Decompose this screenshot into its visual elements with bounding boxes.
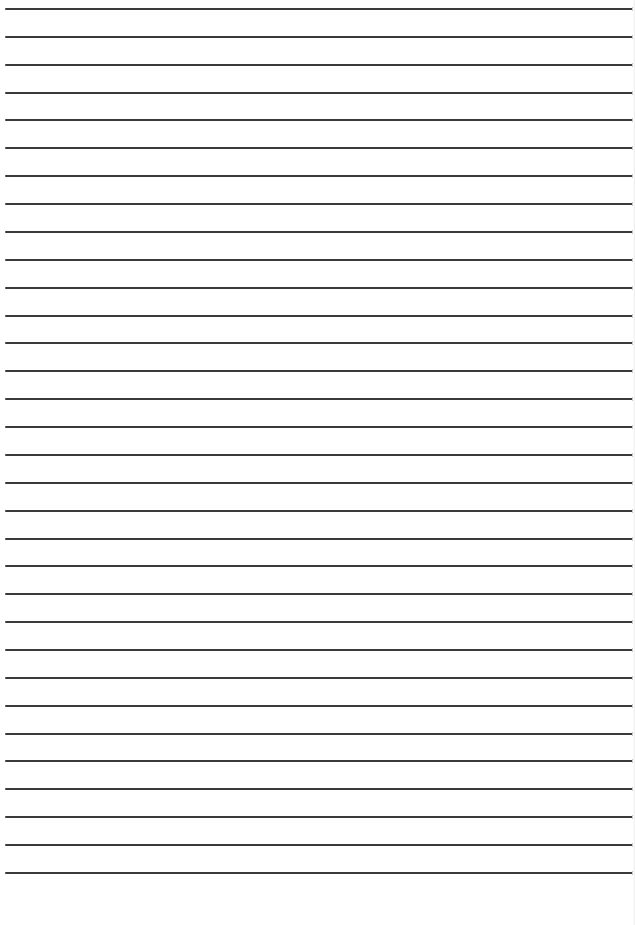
ruled-line	[5, 538, 635, 540]
ruled-line	[5, 426, 635, 428]
ruled-line	[5, 649, 635, 651]
lined-paper-page	[0, 0, 635, 925]
ruled-line	[5, 844, 635, 846]
ruled-line	[5, 315, 635, 317]
ruled-line	[5, 677, 635, 679]
ruled-line	[5, 175, 635, 177]
ruled-line	[5, 119, 635, 121]
ruled-line	[5, 147, 635, 149]
ruled-line	[5, 92, 635, 94]
ruled-line	[5, 565, 635, 567]
ruled-line	[5, 454, 635, 456]
ruled-line	[5, 203, 635, 205]
ruled-line	[5, 398, 635, 400]
ruled-line	[5, 816, 635, 818]
ruled-line	[5, 872, 635, 874]
ruled-line	[5, 760, 635, 762]
ruled-line	[5, 259, 635, 261]
ruled-line	[5, 231, 635, 233]
ruled-line	[5, 705, 635, 707]
ruled-line	[5, 342, 635, 344]
ruled-line	[5, 621, 635, 623]
ruled-line	[5, 733, 635, 735]
ruled-line	[5, 510, 635, 512]
ruled-line	[5, 482, 635, 484]
ruled-line	[5, 593, 635, 595]
ruled-line	[5, 370, 635, 372]
ruled-line	[5, 8, 635, 10]
ruled-line	[5, 287, 635, 289]
ruled-line	[5, 788, 635, 790]
ruled-line	[5, 36, 635, 38]
ruled-line	[5, 64, 635, 66]
